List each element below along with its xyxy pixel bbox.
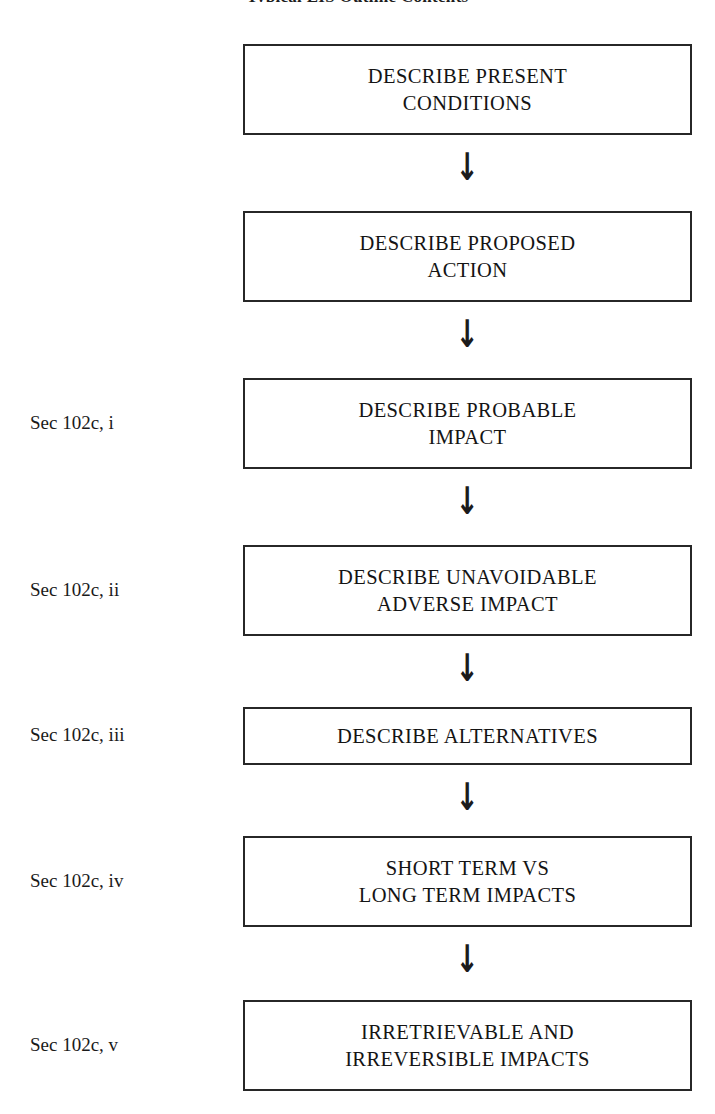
arrow-glyph: ↓	[456, 148, 479, 186]
process-box-text: DESCRIBE PROBABLE IMPACT	[350, 397, 584, 451]
process-box-text: DESCRIBE ALTERNATIVES	[329, 723, 606, 750]
process-box-7: IRRETRIEVABLE AND IRREVERSIBLE IMPACTS	[243, 1000, 692, 1091]
process-box-text: IRRETRIEVABLE AND IRREVERSIBLE IMPACTS	[337, 1019, 598, 1073]
down-arrow-icon: ↓	[110, 942, 715, 976]
process-box-text: DESCRIBE PROPOSED ACTION	[352, 230, 584, 284]
down-arrow-icon: ↓	[110, 651, 715, 685]
process-box-1: DESCRIBE PRESENT CONDITIONS	[243, 44, 692, 135]
arrow-glyph: ↓	[456, 482, 479, 520]
step-label-6: Sec 102c, iv	[30, 870, 230, 892]
step-label-5: Sec 102c, iii	[30, 724, 230, 746]
process-box-text: DESCRIBE UNAVOIDABLE ADVERSE IMPACT	[330, 564, 605, 618]
process-box-3: DESCRIBE PROBABLE IMPACT	[243, 378, 692, 469]
arrow-glyph: ↓	[456, 778, 479, 816]
process-box-5: DESCRIBE ALTERNATIVES	[243, 707, 692, 765]
arrow-glyph: ↓	[456, 315, 479, 353]
process-box-4: DESCRIBE UNAVOIDABLE ADVERSE IMPACT	[243, 545, 692, 636]
step-label-7: Sec 102c, v	[30, 1034, 230, 1056]
down-arrow-icon: ↓	[110, 150, 715, 184]
process-box-text: DESCRIBE PRESENT CONDITIONS	[360, 63, 575, 117]
process-box-6: SHORT TERM VS LONG TERM IMPACTS	[243, 836, 692, 927]
down-arrow-icon: ↓	[110, 780, 715, 814]
arrow-glyph: ↓	[456, 940, 479, 978]
chart-title: Typical EIS Outline Contents	[0, 0, 715, 2]
step-label-4: Sec 102c, ii	[30, 579, 230, 601]
down-arrow-icon: ↓	[110, 317, 715, 351]
step-label-3: Sec 102c, i	[30, 412, 230, 434]
process-box-text: SHORT TERM VS LONG TERM IMPACTS	[351, 855, 585, 909]
process-box-2: DESCRIBE PROPOSED ACTION	[243, 211, 692, 302]
down-arrow-icon: ↓	[110, 484, 715, 518]
arrow-glyph: ↓	[456, 649, 479, 687]
flowchart-diagram: Typical EIS Outline Contents DESCRIBE PR…	[0, 0, 715, 1114]
